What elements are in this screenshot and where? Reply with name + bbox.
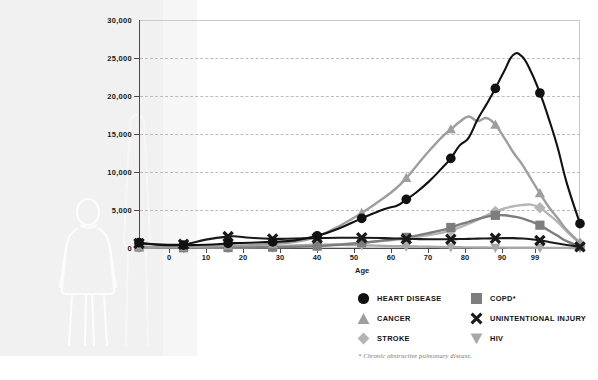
diamond-marker-icon xyxy=(357,332,370,345)
circle-marker-icon xyxy=(357,292,370,305)
x-marker-icon xyxy=(470,312,483,325)
series-heart-disease xyxy=(134,53,585,250)
series-cancer xyxy=(134,117,585,251)
chart-legend: HEART DISEASE CANCER STROKE COPD* xyxy=(357,288,593,350)
mortality-by-age-chart: 30,000 25,000 20,000 15,000 10,000 5,000… xyxy=(0,0,598,285)
legend-item-heart-disease[interactable]: HEART DISEASE xyxy=(357,288,442,308)
legend-label: UNINTENTIONAL INJURY xyxy=(490,314,586,323)
legend-label: STROKE xyxy=(377,334,410,343)
legend-item-stroke[interactable]: STROKE xyxy=(357,328,442,348)
triangle-down-marker-icon xyxy=(470,332,483,345)
legend-item-copd[interactable]: COPD* xyxy=(470,288,586,308)
legend-label: HIV xyxy=(490,334,503,343)
legend-label: HEART DISEASE xyxy=(377,294,442,303)
legend-column-left: HEART DISEASE CANCER STROKE xyxy=(357,288,442,348)
series-lines xyxy=(0,0,598,285)
legend-item-hiv[interactable]: HIV xyxy=(470,328,586,348)
legend-label: COPD* xyxy=(490,294,516,303)
chart-page: 30,000 25,000 20,000 15,000 10,000 5,000… xyxy=(0,0,598,380)
triangle-up-marker-icon xyxy=(357,312,370,325)
legend-label: CANCER xyxy=(377,314,411,323)
legend-item-cancer[interactable]: CANCER xyxy=(357,308,442,328)
legend-footnote: * Chronic obstructive pulmonary disease. xyxy=(358,352,472,359)
square-marker-icon xyxy=(470,292,483,305)
legend-item-unintentional-injury[interactable]: UNINTENTIONAL INJURY xyxy=(470,308,586,328)
legend-column-right: COPD* UNINTENTIONAL INJURY HIV xyxy=(470,288,586,348)
